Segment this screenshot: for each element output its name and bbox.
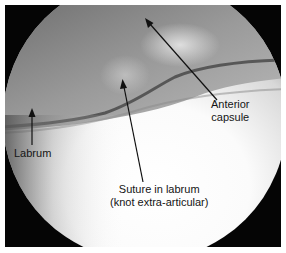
suture-label-line-1: Suture in labrum (110, 183, 208, 196)
suture-label: Suture in labrum (knot extra-articular) (110, 183, 208, 209)
labrum-label: Labrum (14, 147, 51, 160)
anterior-capsule-label-line-1: Anterior (211, 98, 250, 111)
scope-circle (5, 5, 281, 247)
anterior-capsule-label: Anterior capsule (211, 98, 250, 124)
anterior-capsule-label-line-2: capsule (211, 111, 250, 124)
arthroscopic-view-frame: Labrum Suture in labrum (knot extra-arti… (5, 5, 281, 247)
labrum-label-text: Labrum (14, 147, 51, 159)
arthroscopic-scene (5, 5, 281, 247)
suture-label-line-2: (knot extra-articular) (110, 196, 208, 209)
